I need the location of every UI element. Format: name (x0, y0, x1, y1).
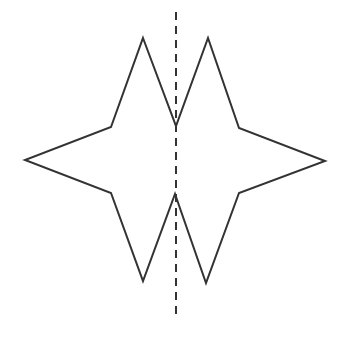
diagram-canvas (0, 0, 345, 339)
star-figure (0, 0, 345, 339)
